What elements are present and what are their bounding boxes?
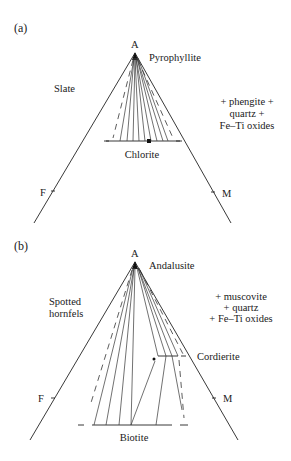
f-vertex-a-label: F — [40, 187, 46, 198]
assemblage-a-line3: Fe–Ti oxides — [220, 120, 275, 131]
apex-b-label: A — [131, 248, 139, 259]
cordierite-composition-marker — [153, 358, 156, 361]
assemblage-a-line1: + phengite + — [220, 96, 273, 107]
pyrophyllite-label: Pyrophyllite — [149, 52, 201, 63]
panel-a: (a) A Pyrophyllite Slate + phengite + qu… — [14, 21, 274, 223]
slate-label: Slate — [54, 83, 75, 94]
assemblage-a-line2: quartz + — [230, 108, 265, 119]
m-vertex-b-label: M — [223, 393, 233, 404]
f-vertex-b-label: F — [38, 393, 44, 404]
afm-diagrams: (a) A Pyrophyllite Slate + phengite + qu… — [0, 0, 291, 461]
tie-lines-b — [90, 268, 184, 425]
assemblage-b-line2: + quartz — [224, 302, 259, 313]
biotite-label: Biotite — [120, 432, 149, 443]
chlorite-label: Chlorite — [125, 149, 160, 160]
apex-a-label: A — [131, 39, 139, 50]
andalusite-label: Andalusite — [149, 260, 195, 271]
rock-name-b-line2: hornfels — [49, 308, 83, 319]
panel-b-label: (b) — [14, 239, 28, 253]
assemblage-b-line3: + Fe–Ti oxides — [209, 313, 272, 324]
tie-lines-a — [113, 58, 173, 141]
rock-name-b-line1: Spotted — [49, 296, 82, 307]
triangle-a-right-side — [135, 53, 231, 223]
panel-a-label: (a) — [14, 21, 27, 35]
m-vertex-a-label: M — [222, 188, 232, 199]
cordierite-label: Cordierite — [197, 351, 240, 362]
triangle-a-left-side — [34, 53, 135, 223]
assemblage-b-line1: + muscovite — [215, 291, 267, 302]
panel-b: (b) A Andalusite Spotted hornfels + musc… — [14, 239, 273, 443]
